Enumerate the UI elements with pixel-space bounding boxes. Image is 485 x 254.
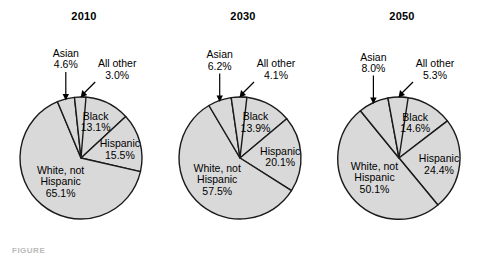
pie-panel-2010: 2010 Asian 4.6% All other 3.0% Black 13.… (3, 0, 165, 254)
figure-caption: FIGURE (12, 246, 45, 254)
pie-panel-2050: 2050 Asian 8.0% All other 5.3% Black 14.… (321, 0, 483, 254)
slice-label-black-2050: Black 14.6% (334, 112, 485, 135)
slice-label-black-2010: Black 13.1% (15, 111, 177, 134)
leader-all-other-2050 (399, 82, 414, 98)
leader-all-other-2010 (81, 82, 96, 98)
callout-all-other-2050: All other 5.3% (354, 58, 485, 81)
slice-label-black-2030: Black 13.9% (175, 111, 337, 134)
pie-chart-figure: 2010 Asian 4.6% All other 3.0% Black 13.… (0, 0, 485, 254)
pie-panel-2030: 2030 Asian 6.2% All other 4.1% Black 13.… (162, 0, 324, 254)
leader-all-other-2030 (240, 82, 255, 98)
slice-label-white-not-hispanic-2030: White, not Hispanic 57.5% (136, 163, 298, 198)
slice-label-white-not-hispanic-2050: White, not Hispanic 50.1% (294, 161, 456, 196)
slice-label-white-not-hispanic-2010: White, not Hispanic 65.1% (0, 165, 142, 200)
